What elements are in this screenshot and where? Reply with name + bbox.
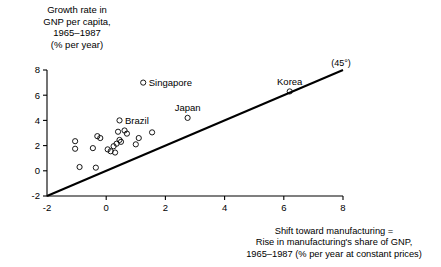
x-tick-label: 8: [340, 202, 345, 213]
data-point-brazil: [117, 118, 122, 123]
point-label-brazil: Brazil: [125, 115, 149, 126]
point-label-singapore: Singapore: [149, 77, 192, 88]
data-point: [93, 165, 98, 170]
x-tick-label: 6: [281, 202, 286, 213]
y-tick-label: 8: [35, 64, 40, 75]
y-tick-label: 0: [35, 165, 40, 176]
y-tick-label: -2: [32, 190, 40, 201]
data-point: [133, 142, 138, 147]
y-tick-label: 2: [35, 140, 40, 151]
data-point: [136, 135, 141, 140]
data-point-japan: [185, 115, 190, 120]
x-tick-label: -2: [43, 202, 51, 213]
data-point: [149, 130, 154, 135]
data-point: [77, 164, 82, 169]
data-point: [73, 146, 78, 151]
y-tick-label: 4: [35, 115, 40, 126]
x-axis-caption: Shift toward manufacturing = Rise in man…: [228, 226, 440, 260]
data-point: [90, 146, 95, 151]
data-point-singapore: [141, 80, 146, 85]
annotation-45-degree: (45°): [331, 58, 351, 68]
point-label-korea: Korea: [277, 76, 303, 87]
point-labels: SingaporeKoreaJapanBrazil: [125, 76, 303, 126]
x-tick-label: 2: [163, 202, 168, 213]
annotations: (45°): [331, 58, 351, 68]
x-tick-label: 4: [222, 202, 227, 213]
x-tick-label: 0: [104, 202, 109, 213]
data-point: [73, 139, 78, 144]
point-label-japan: Japan: [175, 102, 201, 113]
reference-line-45deg: [47, 70, 343, 196]
y-tick-label: 6: [35, 90, 40, 101]
data-points: [73, 80, 293, 170]
scatter-chart: Growth rate in GNP per capita, 1965–1987…: [0, 0, 441, 267]
data-point: [115, 129, 120, 134]
